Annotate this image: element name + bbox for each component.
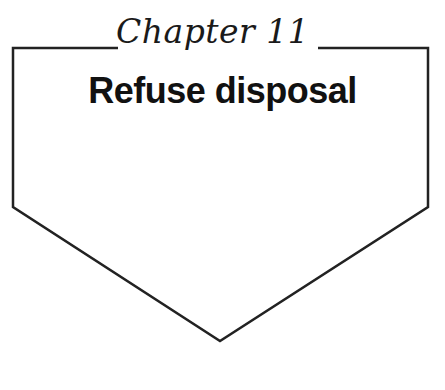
page-title: Refuse disposal [0,70,445,112]
chapter-label: Chapter 11 [116,12,316,51]
chapter-frame-shape [0,0,445,390]
